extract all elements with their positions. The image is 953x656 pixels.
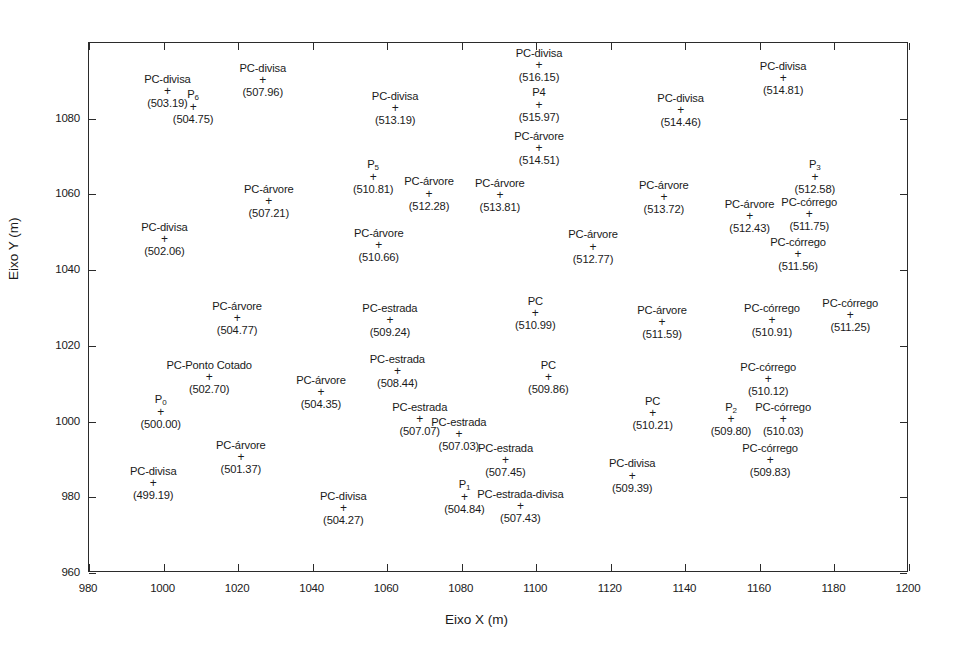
survey-point: PC-estrada-divisa+(507.43) bbox=[477, 488, 563, 524]
y-axis-tick-label: 960 bbox=[40, 566, 80, 578]
survey-point: PC-divisa+(507.96) bbox=[240, 62, 287, 98]
x-axis-tick bbox=[685, 43, 686, 50]
survey-point-elevation: (516.15) bbox=[516, 71, 563, 83]
survey-point: PC+(510.21) bbox=[632, 395, 672, 431]
survey-point-elevation: (509.83) bbox=[742, 466, 798, 478]
survey-point: PC-córrego+(510.03) bbox=[755, 401, 811, 437]
survey-point-elevation: (500.00) bbox=[140, 417, 180, 429]
plus-marker-icon: + bbox=[770, 248, 826, 260]
survey-point-elevation: (512.43) bbox=[725, 222, 775, 234]
x-axis-tick-label: 1100 bbox=[523, 582, 547, 594]
plus-marker-icon: + bbox=[516, 59, 563, 71]
x-axis-tick-label: 1200 bbox=[896, 582, 921, 594]
y-axis-tick bbox=[900, 119, 907, 120]
survey-point-elevation: (514.46) bbox=[657, 116, 704, 128]
plus-marker-icon: + bbox=[244, 195, 294, 207]
survey-point: PC-divisa+(516.15) bbox=[516, 47, 563, 83]
x-axis-tick-label: 1000 bbox=[150, 582, 175, 594]
survey-point-elevation: (512.77) bbox=[568, 252, 618, 264]
plus-marker-icon: + bbox=[320, 502, 367, 514]
plus-marker-icon: + bbox=[795, 171, 835, 183]
plus-marker-icon: + bbox=[166, 371, 251, 383]
survey-point: PC-árvore+(512.28) bbox=[404, 175, 454, 211]
plus-marker-icon: + bbox=[514, 142, 564, 154]
x-axis-tick bbox=[387, 564, 388, 571]
x-axis-tick bbox=[611, 43, 612, 50]
x-axis-tick bbox=[387, 43, 388, 50]
x-axis-tick bbox=[462, 564, 463, 571]
x-axis-label: Eixo X (m) bbox=[0, 612, 953, 627]
plus-marker-icon: + bbox=[240, 74, 287, 86]
survey-point-label: P2 bbox=[711, 400, 751, 413]
x-axis-tick bbox=[685, 564, 686, 571]
survey-point-elevation: (510.91) bbox=[744, 326, 800, 338]
survey-point: PC-córrego+(510.91) bbox=[744, 302, 800, 338]
survey-point-elevation: (502.06) bbox=[141, 245, 188, 257]
survey-point: PC-divisa+(513.19) bbox=[372, 90, 419, 126]
x-axis-tick bbox=[238, 43, 239, 50]
plus-marker-icon: + bbox=[781, 208, 837, 220]
x-axis-tick-label: 1060 bbox=[374, 582, 399, 594]
y-axis-tick bbox=[900, 270, 907, 271]
y-axis-tick-label: 1000 bbox=[40, 415, 80, 427]
x-axis-tick-label: 980 bbox=[79, 582, 98, 594]
survey-point: PC-estrada+(508.44) bbox=[370, 353, 425, 389]
y-axis-tick bbox=[89, 346, 96, 347]
x-axis-tick bbox=[760, 43, 761, 50]
survey-point-elevation: (509.80) bbox=[711, 425, 751, 437]
plus-marker-icon: + bbox=[740, 373, 796, 385]
survey-point: PC-córrego+(511.25) bbox=[822, 296, 878, 332]
survey-point-label: P6 bbox=[173, 88, 213, 101]
plus-marker-icon: + bbox=[609, 469, 656, 481]
plus-marker-icon: + bbox=[140, 405, 180, 417]
survey-point-elevation: (513.81) bbox=[475, 201, 525, 213]
survey-point: PC+(510.99) bbox=[515, 295, 555, 331]
x-axis-tick bbox=[834, 564, 835, 571]
x-axis-tick bbox=[760, 564, 761, 571]
plus-marker-icon: + bbox=[130, 477, 177, 489]
y-axis-tick-label: 1080 bbox=[40, 112, 80, 124]
survey-point: PC-árvore+(507.21) bbox=[244, 183, 294, 219]
x-axis-tick bbox=[313, 564, 314, 571]
survey-point: PC-árvore+(510.66) bbox=[354, 226, 404, 262]
survey-point: PC-árvore+(504.35) bbox=[296, 374, 346, 410]
y-axis-tick bbox=[89, 497, 96, 498]
survey-point-elevation: (510.81) bbox=[353, 183, 393, 195]
x-axis-tick-label: 1120 bbox=[598, 582, 622, 594]
survey-point: P4+(515.97) bbox=[519, 86, 559, 122]
x-axis-tick bbox=[313, 43, 314, 50]
survey-point-elevation: (510.21) bbox=[632, 419, 672, 431]
y-axis-tick bbox=[89, 422, 96, 423]
survey-point: PC-árvore+(512.43) bbox=[725, 198, 775, 234]
survey-point: PC-árvore+(511.59) bbox=[637, 304, 687, 340]
plus-marker-icon: + bbox=[475, 189, 525, 201]
plus-marker-icon: + bbox=[173, 101, 213, 113]
plus-marker-icon: + bbox=[370, 365, 425, 377]
plus-marker-icon: + bbox=[568, 240, 618, 252]
survey-point-label: P5 bbox=[353, 158, 393, 171]
survey-point-elevation: (504.75) bbox=[173, 113, 213, 125]
x-axis-tick bbox=[909, 43, 910, 50]
x-axis-tick-label: 1140 bbox=[672, 582, 696, 594]
survey-point: PC-árvore+(501.37) bbox=[216, 438, 266, 474]
survey-point: PC-córrego+(511.75) bbox=[781, 196, 837, 232]
plus-marker-icon: + bbox=[755, 413, 811, 425]
topographic-survey-figure: Eixo X (m) Eixo Y (m) 980100010201040106… bbox=[0, 0, 953, 656]
plus-marker-icon: + bbox=[725, 210, 775, 222]
survey-point-label: P3 bbox=[795, 158, 835, 171]
x-axis-tick-label: 1180 bbox=[821, 582, 845, 594]
survey-point: PC-divisa+(509.39) bbox=[609, 457, 656, 493]
plus-marker-icon: + bbox=[141, 233, 188, 245]
x-axis-tick bbox=[164, 564, 165, 571]
survey-point: PC-árvore+(513.81) bbox=[475, 177, 525, 213]
survey-point-elevation: (504.27) bbox=[320, 514, 367, 526]
survey-point-elevation: (507.43) bbox=[477, 512, 563, 524]
plus-marker-icon: + bbox=[744, 314, 800, 326]
x-axis-tick bbox=[238, 564, 239, 571]
plus-marker-icon: + bbox=[296, 386, 346, 398]
plus-marker-icon: + bbox=[216, 451, 266, 463]
survey-point-elevation: (512.58) bbox=[795, 183, 835, 195]
survey-point-elevation: (510.03) bbox=[755, 425, 811, 437]
y-axis-tick bbox=[89, 119, 96, 120]
x-axis-tick-label: 1040 bbox=[299, 582, 324, 594]
